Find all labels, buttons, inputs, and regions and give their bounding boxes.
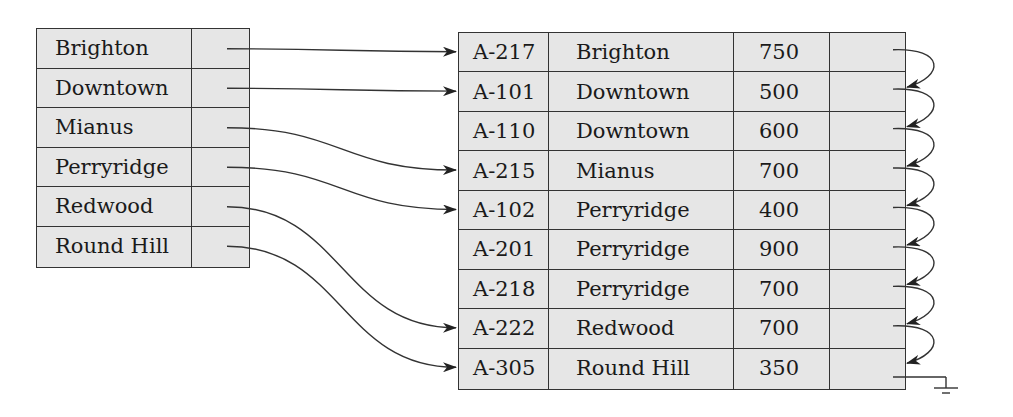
file-table: A-217Brighton750A-101Downtown500A-110Dow…	[458, 32, 906, 390]
next-pointer-cell	[830, 270, 904, 308]
index-pointer-arrow	[227, 246, 456, 367]
next-pointer-cell	[830, 72, 904, 110]
index-pointer-cell	[192, 29, 248, 68]
index-entry: Downtown	[37, 69, 249, 109]
account-number: A-215	[473, 151, 535, 189]
branch-name: Round Hill	[576, 349, 690, 388]
branch-name: Redwood	[576, 309, 674, 347]
index-pointer-arrow	[227, 128, 456, 170]
index-key: Redwood	[55, 187, 153, 226]
balance: 400	[759, 191, 799, 229]
balance: 750	[759, 33, 799, 71]
index-entry: Round Hill	[37, 227, 249, 267]
account-number: A-101	[473, 72, 535, 110]
branch-name: Downtown	[576, 112, 690, 150]
index-key: Mianus	[55, 108, 134, 147]
balance: 700	[759, 270, 799, 308]
account-number: A-201	[473, 230, 535, 268]
file-record: A-101Downtown500	[459, 72, 905, 111]
account-number: A-110	[473, 112, 535, 150]
branch-name: Perryridge	[576, 270, 690, 308]
file-record: A-102Perryridge400	[459, 191, 905, 230]
index-key: Perryridge	[55, 148, 169, 187]
index-pointer-cell	[192, 148, 248, 187]
index-entry: Redwood	[37, 187, 249, 227]
next-pointer-cell	[830, 349, 904, 388]
branch-name: Perryridge	[576, 191, 690, 229]
index-pointer-cell	[192, 227, 248, 267]
balance: 700	[759, 151, 799, 189]
file-record: A-305Round Hill350	[459, 349, 905, 388]
index-table: BrightonDowntownMianusPerryridgeRedwoodR…	[36, 28, 250, 268]
index-entry: Mianus	[37, 108, 249, 148]
next-pointer-cell	[830, 151, 904, 189]
index-key: Round Hill	[55, 227, 169, 267]
index-pointer-arrow	[227, 49, 456, 52]
balance: 900	[759, 230, 799, 268]
index-pointer-arrow	[227, 167, 456, 209]
index-pointer-cell	[192, 187, 248, 226]
file-record: A-201Perryridge900	[459, 230, 905, 269]
account-number: A-218	[473, 270, 535, 308]
branch-name: Brighton	[576, 33, 670, 71]
account-number: A-305	[473, 349, 535, 388]
file-record: A-222Redwood700	[459, 309, 905, 348]
index-key: Brighton	[55, 29, 149, 68]
index-pointer-cell	[192, 69, 248, 108]
account-number: A-222	[473, 309, 535, 347]
next-pointer-cell	[830, 112, 904, 150]
branch-name: Mianus	[576, 151, 655, 189]
balance: 700	[759, 309, 799, 347]
account-number: A-102	[473, 191, 535, 229]
index-key: Downtown	[55, 69, 169, 108]
index-pointer-arrow	[227, 207, 456, 328]
index-entry: Brighton	[37, 29, 249, 69]
branch-name: Perryridge	[576, 230, 690, 268]
account-number: A-217	[473, 33, 535, 71]
next-pointer-cell	[830, 33, 904, 71]
file-record: A-215Mianus700	[459, 151, 905, 190]
index-pointer-cell	[192, 108, 248, 147]
balance: 350	[759, 349, 799, 388]
index-entry: Perryridge	[37, 148, 249, 188]
balance: 500	[759, 72, 799, 110]
next-pointer-cell	[830, 309, 904, 347]
file-record: A-217Brighton750	[459, 33, 905, 72]
file-record: A-218Perryridge700	[459, 270, 905, 309]
file-record: A-110Downtown600	[459, 112, 905, 151]
index-pointer-arrow	[227, 88, 456, 91]
next-pointer-cell	[830, 230, 904, 268]
branch-name: Downtown	[576, 72, 690, 110]
balance: 600	[759, 112, 799, 150]
next-pointer-cell	[830, 191, 904, 229]
